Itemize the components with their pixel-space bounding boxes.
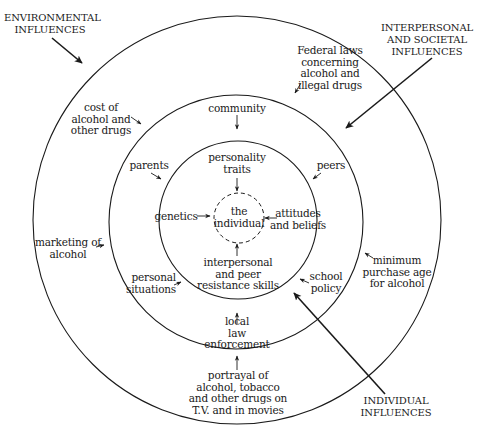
cost-of-alcohol-label: cost of alcohol and other drugs bbox=[68, 102, 134, 137]
federal-laws-label: Federal laws concerning alcohol and ille… bbox=[290, 45, 370, 91]
personal-situations-label: personal situations bbox=[126, 272, 176, 295]
individual-arrow bbox=[294, 293, 385, 394]
the-individual-label: the individual bbox=[209, 206, 269, 229]
environmental-influences-label: ENVIRONMENTAL INFLUENCES bbox=[4, 12, 96, 36]
genetics-label: genetics bbox=[153, 211, 199, 223]
parents-arrow bbox=[151, 173, 161, 179]
influence-diagram: ENVIRONMENTAL INFLUENCES INTERPERSONAL A… bbox=[0, 0, 477, 430]
peers-label: peers bbox=[313, 160, 349, 172]
environmental-arrow bbox=[52, 38, 82, 63]
individual-influences-label: INDIVIDUAL INFLUENCES bbox=[358, 395, 434, 419]
marketing-of-alcohol-label: marketing of alcohol bbox=[34, 237, 102, 260]
school-policy-label: school policy bbox=[305, 271, 347, 294]
portrayal-on-tv-label: portrayal of alcohol, tobacco and other … bbox=[183, 370, 293, 416]
interpersonal-societal-influences-label: INTERPERSONAL AND SOCIETAL INFLUENCES bbox=[378, 22, 476, 58]
peers-arrow bbox=[313, 173, 321, 179]
resistance-skills-label: interpersonal and peer resistance skills bbox=[188, 257, 288, 292]
parents-label: parents bbox=[128, 160, 170, 172]
personality-traits-label: personality traits bbox=[197, 152, 277, 175]
minimum-purchase-age-label: minimum purchase age for alcohol bbox=[359, 255, 435, 290]
local-law-enforcement-label: local law enforcement bbox=[197, 316, 277, 351]
community-label: community bbox=[207, 103, 267, 115]
attitudes-beliefs-label: attitudes and beliefs bbox=[267, 208, 329, 231]
